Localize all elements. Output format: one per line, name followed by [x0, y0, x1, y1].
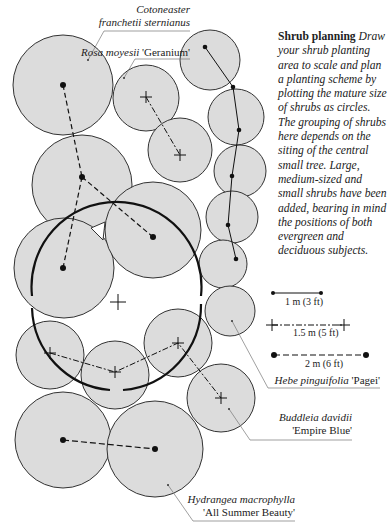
legend-label-1-5m: 1.5 m (5 ft) [293, 327, 339, 338]
legend-label-1m: 1 m (3 ft) [285, 296, 323, 307]
label-hydrangea: Hydrangea macrophylla 'All Summer Beauty… [188, 493, 295, 519]
hebe-circle-5 [199, 240, 247, 288]
caption: Shrub planning Draw your shrub planting … [278, 30, 388, 259]
label-cotoneaster-genus: Cotoneaster [99, 3, 190, 16]
hebe-circle-2 [208, 89, 264, 145]
label-cotoneaster: Cotoneaster franchetii sternianus [99, 3, 190, 29]
caption-body: Draw your shrub planting area to scale a… [278, 30, 387, 257]
label-hebe: Hebe pinguifolia 'Pagei' [275, 374, 380, 387]
hebe-circle-4 [206, 191, 258, 243]
legend-label-2m: 2 m (6 ft) [305, 358, 343, 369]
caption-title: Shrub planning [278, 30, 356, 43]
cotoneaster-circle-4 [105, 182, 201, 278]
label-rosa: Rosa moyesii 'Geranium' [81, 46, 190, 59]
label-cotoneaster-species: franchetii sternianus [99, 16, 190, 29]
tree-center-cross [110, 294, 126, 310]
hebe-circle-3 [214, 145, 266, 197]
hebe-circle-1 [180, 30, 240, 90]
label-buddleia: Buddleia davidii 'Empire Blue' [279, 411, 352, 437]
hebe-circle-6 [205, 286, 255, 336]
